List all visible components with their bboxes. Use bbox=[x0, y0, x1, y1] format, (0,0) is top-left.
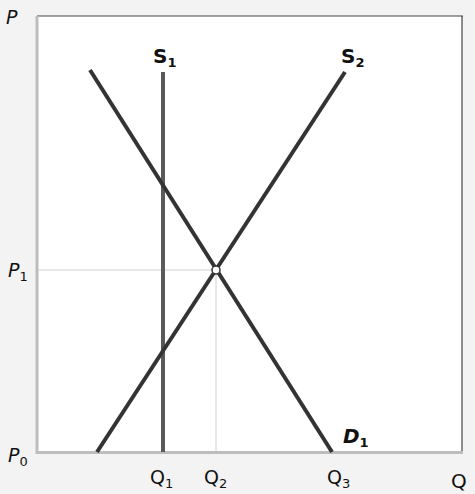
p1-tick-label: P1 bbox=[8, 259, 28, 284]
plot-area bbox=[37, 16, 462, 452]
q3-tick-label: Q3 bbox=[327, 466, 350, 491]
y-axis-label: P bbox=[6, 6, 18, 28]
q2-tick-label: Q2 bbox=[204, 466, 227, 491]
supply-demand-chart: P Q P1 P0 Q1 Q2 Q3 S1 S2 D1 bbox=[0, 0, 475, 494]
x-axis-label: Q bbox=[451, 469, 467, 493]
equilibrium-point bbox=[212, 266, 220, 274]
p0-tick-label: P0 bbox=[8, 444, 28, 469]
q1-tick-label: Q1 bbox=[150, 466, 173, 491]
